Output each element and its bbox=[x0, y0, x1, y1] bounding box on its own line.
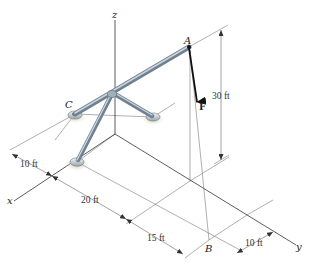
z-axis-label: z bbox=[111, 9, 118, 20]
construction-lines bbox=[10, 25, 273, 258]
tripod-rods bbox=[75, 45, 191, 160]
x-axis-label: x bbox=[7, 195, 13, 206]
dim-10ft-y: 10 ft bbox=[245, 238, 263, 248]
dim-15ft: 15 ft bbox=[147, 233, 165, 243]
dim-20ft: 20 ft bbox=[81, 195, 99, 205]
point-c-label: C bbox=[65, 99, 73, 110]
labels: z x y A B C F 30 ft 10 ft 20 ft 15 ft 10… bbox=[7, 9, 302, 254]
force-f-label: F bbox=[199, 101, 206, 112]
y-axis-label: y bbox=[295, 241, 302, 252]
dim-30ft: 30 ft bbox=[212, 91, 230, 101]
tripod-force-diagram: z x y A B C F 30 ft 10 ft 20 ft 15 ft 10… bbox=[0, 0, 310, 271]
dimension-lines bbox=[12, 30, 273, 254]
point-a-label: A bbox=[183, 35, 191, 46]
point-b-label: B bbox=[204, 243, 212, 254]
dim-10ft-x: 10 ft bbox=[20, 159, 38, 169]
y-axis bbox=[115, 134, 296, 245]
